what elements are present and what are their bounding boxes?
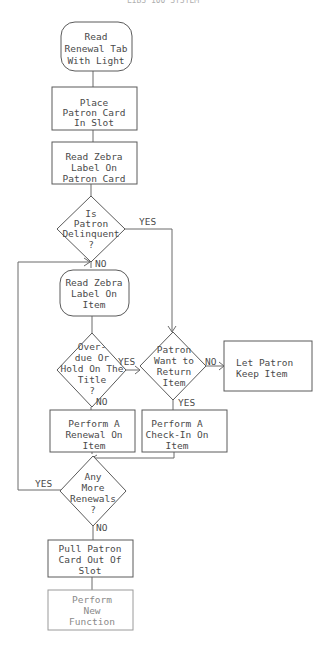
svg-text:Title: Title (78, 374, 107, 385)
svg-text:More: More (82, 482, 105, 493)
svg-text:Perform A: Perform A (68, 418, 120, 429)
svg-text:Keep Item: Keep Item (236, 368, 288, 379)
svg-text:Perform: Perform (72, 594, 112, 605)
svg-text:Any: Any (84, 471, 101, 482)
label-delinquent-no: NO (95, 258, 107, 269)
svg-text:Read Zebra: Read Zebra (65, 277, 122, 288)
svg-text:Slot: Slot (79, 565, 102, 576)
svg-text:Label On: Label On (71, 162, 117, 173)
decision-overdue-or-hold: Over- due Or Hold On The Title ? (57, 333, 126, 407)
svg-text:LIBS 100 SYSTEM: LIBS 100 SYSTEM (127, 0, 199, 5)
svg-text:Let Patron: Let Patron (236, 357, 293, 368)
svg-text:In Slot: In Slot (74, 117, 114, 128)
svg-text:Patron Card: Patron Card (63, 173, 126, 184)
process-perform-new-function: Perform New Function (48, 590, 133, 630)
svg-text:Perform A: Perform A (151, 418, 203, 429)
process-let-patron-keep-item: Let Patron Keep Item (224, 341, 312, 391)
svg-text:Item: Item (83, 440, 106, 451)
process-read-card-label: Read Zebra Label On Patron Card (52, 142, 137, 184)
svg-text:Pull Patron: Pull Patron (59, 543, 122, 554)
svg-text:Return: Return (157, 366, 191, 377)
svg-text:Item: Item (83, 299, 106, 310)
decision-patron-delinquent: Is Patron Delinquent ? (57, 196, 125, 262)
process-place-patron-card: Place Patron Card In Slot (52, 87, 137, 130)
svg-text:?: ? (90, 504, 96, 515)
connector-delinquent-yes (125, 229, 172, 332)
label-overdue-no: NO (96, 396, 108, 407)
label-return-yes: YES (178, 397, 195, 408)
label-more-yes: YES (35, 478, 52, 489)
svg-text:Renewal Tab: Renewal Tab (65, 43, 128, 54)
terminal-read-item-label: Read Zebra Label On Item (60, 270, 129, 316)
connector-checkin-merge (92, 452, 174, 458)
decision-want-return: Patron Want to Return Item (140, 332, 206, 400)
svg-text:?: ? (89, 385, 95, 396)
svg-text:Function: Function (69, 616, 115, 627)
label-return-no: NO (205, 356, 217, 367)
svg-text:Read Zebra: Read Zebra (65, 151, 122, 162)
svg-text:Patron: Patron (157, 344, 191, 355)
diagram-title: LIBS 100 SYSTEM (127, 0, 199, 5)
svg-text:Renewal On: Renewal On (65, 429, 122, 440)
svg-text:Item: Item (166, 440, 189, 451)
svg-text:Hold On The: Hold On The (61, 363, 124, 374)
svg-text:Want to: Want to (154, 355, 194, 366)
svg-text:Over-: Over- (78, 341, 107, 352)
svg-text:Read: Read (85, 31, 108, 42)
svg-text:Delinquent: Delinquent (62, 228, 119, 239)
label-more-no: NO (96, 522, 108, 533)
svg-text:New: New (83, 605, 100, 616)
process-perform-checkin: Perform A Check-In On Item (142, 410, 227, 452)
decision-more-renewals: Any More Renewals ? (60, 456, 126, 526)
svg-text:Item: Item (163, 377, 186, 388)
label-overdue-yes: YES (118, 356, 135, 367)
svg-text:With Light: With Light (67, 55, 124, 66)
svg-text:?: ? (88, 239, 94, 250)
terminal-read-renewal-tab: Read Renewal Tab With Light (61, 22, 132, 71)
svg-text:Check-In On: Check-In On (146, 429, 209, 440)
process-perform-renewal: Perform A Renewal On Item (50, 410, 135, 452)
process-pull-patron-card: Pull Patron Card Out Of Slot (48, 540, 133, 577)
svg-text:Card Out Of: Card Out Of (59, 554, 122, 565)
svg-text:Label On: Label On (71, 288, 117, 299)
label-delinquent-yes: YES (139, 216, 156, 227)
flowchart: LIBS 100 SYSTEM (0, 0, 326, 651)
svg-text:due Or: due Or (75, 352, 110, 363)
svg-text:Renewals: Renewals (70, 493, 116, 504)
